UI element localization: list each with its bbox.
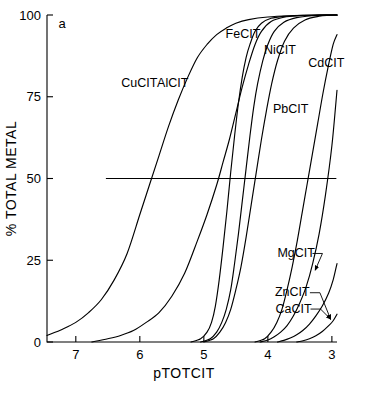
series-curve-cacit: [297, 314, 337, 342]
curve-label-cucit: CuCIT: [121, 76, 157, 90]
x-tick-label: 4: [264, 347, 271, 362]
axis-titles: pTOTCIT% TOTAL METALa: [3, 16, 215, 381]
y-axis-title: % TOTAL METAL: [3, 121, 19, 236]
curve-label-fecit: FeCIT: [226, 27, 261, 41]
x-axis-title: pTOTCIT: [153, 365, 215, 381]
y-tick-label: 0: [34, 335, 41, 350]
curve-label-nicit: NiCIT: [264, 43, 296, 57]
y-tick-label: 25: [27, 253, 41, 268]
x-tick-label: 6: [136, 347, 143, 362]
y-tick-label: 75: [27, 89, 41, 104]
curve-label-pbcit: PbCIT: [273, 102, 309, 116]
chart-figure: { "figure": { "panel_label": "a", "backg…: [0, 0, 378, 404]
x-tick-label: 5: [200, 347, 207, 362]
curve-label-cacit: CaCIT: [276, 302, 312, 316]
curve-label-mgcit: MgCIT: [277, 246, 315, 260]
panel-label: a: [59, 16, 67, 31]
plot-canvas: CuCITAlCITFeCITNiCITPbCITCdCITMgCITZnCIT…: [0, 0, 378, 404]
y-tick-label: 100: [19, 8, 41, 23]
y-tick-label: 50: [27, 171, 41, 186]
curve-label-cdcit: CdCIT: [308, 56, 344, 70]
x-tick-label: 3: [328, 347, 335, 362]
curve-label-zncit: ZnCIT: [275, 285, 310, 299]
curve-label-alcit: AlCIT: [157, 76, 189, 90]
x-tick-label: 7: [72, 347, 79, 362]
